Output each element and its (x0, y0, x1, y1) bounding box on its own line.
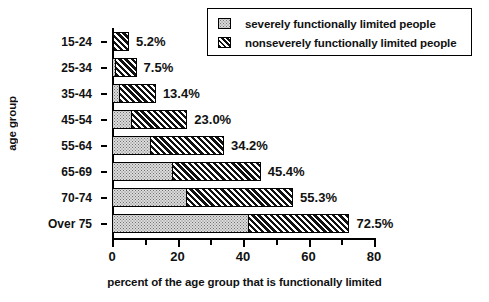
y-axis-category-55-64: 55-64 (61, 133, 92, 159)
x-axis-ticks (112, 240, 376, 248)
y-axis-category-65-69: 65-69 (61, 159, 92, 185)
bar-row: 34.2% (112, 133, 374, 159)
x-axis-tick-minor (210, 240, 212, 245)
stacked-bar[interactable] (112, 32, 129, 51)
bar-segment-severe (113, 189, 187, 206)
bar-segment-nonsevere (187, 189, 292, 206)
y-axis-category-25-34: 25-34 (61, 55, 92, 81)
x-axis-tick-minor (341, 240, 343, 245)
bar-segment-nonsevere (114, 33, 128, 50)
y-axis-category-70-74: 70-74 (61, 185, 92, 211)
x-axis-tick-labels: 020406080 (112, 249, 376, 267)
y-axis-tick (101, 41, 107, 43)
x-axis-tick-major (243, 240, 245, 247)
y-axis-category-35-44: 35-44 (61, 81, 92, 107)
stacked-bar[interactable] (112, 136, 224, 155)
x-axis-tick-label: 40 (236, 249, 250, 264)
stacked-bar[interactable] (112, 188, 293, 207)
bar-segment-nonsevere (151, 137, 223, 154)
x-axis-tick-major (309, 240, 311, 247)
bar-value-label: 55.3% (300, 188, 337, 207)
bar-segment-nonsevere (120, 85, 155, 102)
x-axis-tick-minor (276, 240, 278, 245)
x-axis-tick-label: 20 (170, 249, 184, 264)
x-axis-tick-label: 80 (367, 249, 381, 264)
y-axis-tick (101, 67, 107, 69)
y-axis-tick (101, 223, 107, 225)
stacked-bar[interactable] (112, 214, 349, 233)
y-axis-tick (101, 197, 107, 199)
bar-value-label: 13.4% (163, 84, 200, 103)
legend-label-severe: severely functionally limited people (245, 18, 436, 30)
legend-swatch-severe-icon (218, 18, 231, 29)
bar-segment-nonsevere (249, 215, 349, 232)
stacked-bar[interactable] (112, 162, 261, 181)
bar-row: 5.2% (112, 29, 374, 55)
bar-row: 45.4% (112, 159, 374, 185)
y-axis-tick (101, 93, 107, 95)
bar-value-label: 5.2% (136, 32, 166, 51)
stacked-bar[interactable] (112, 84, 156, 103)
x-axis-tick-major (374, 240, 376, 247)
bar-segment-nonsevere (116, 59, 136, 76)
bar-row: 72.5% (112, 211, 374, 237)
y-axis-category-over-75: Over 75 (48, 211, 92, 237)
x-axis-tick-label: 0 (108, 249, 115, 264)
bar-segment-severe (113, 137, 151, 154)
x-axis-title: percent of the age group that is functio… (0, 276, 489, 288)
bar-row: 13.4% (112, 81, 374, 107)
bar-segment-nonsevere (173, 163, 260, 180)
bar-value-label: 34.2% (231, 136, 268, 155)
bar-row: 23.0% (112, 107, 374, 133)
chart-root: severely functionally limited people non… (0, 0, 489, 302)
bar-row: 7.5% (112, 55, 374, 81)
y-axis-tick (101, 171, 107, 173)
y-axis-category-labels: 15-2425-3435-4445-5455-6465-6970-74Over … (0, 29, 106, 238)
x-axis-tick-major (112, 240, 114, 247)
bar-value-label: 7.5% (144, 58, 174, 77)
bar-value-label: 72.5% (356, 214, 393, 233)
y-axis-tick (101, 119, 107, 121)
bar-segment-severe (113, 111, 132, 128)
bar-segment-nonsevere (132, 111, 186, 128)
bar-row: 55.3% (112, 185, 374, 211)
bar-value-label: 45.4% (268, 162, 305, 181)
stacked-bar[interactable] (112, 110, 187, 129)
x-axis-tick-minor (145, 240, 147, 245)
x-axis-tick-major (178, 240, 180, 247)
bar-segment-severe (113, 215, 249, 232)
y-axis-tick (101, 145, 107, 147)
y-axis-category-15-24: 15-24 (61, 29, 92, 55)
x-axis-tick-label: 60 (301, 249, 315, 264)
bar-value-label: 23.0% (194, 110, 231, 129)
stacked-bar[interactable] (112, 58, 137, 77)
y-axis-category-45-54: 45-54 (61, 107, 92, 133)
plot-area: 5.2%7.5%13.4%23.0%34.2%45.4%55.3%72.5% (112, 29, 374, 238)
bar-segment-severe (113, 163, 173, 180)
